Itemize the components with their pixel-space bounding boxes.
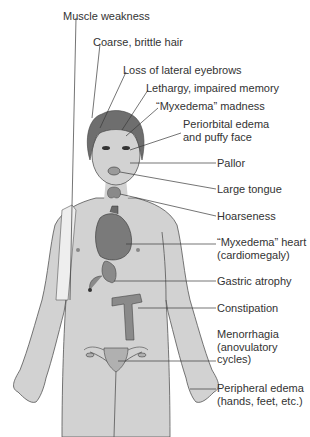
label-lethargy: Lethargy, impaired memory	[146, 82, 279, 95]
label-line: cycles)	[217, 353, 279, 366]
label-hoarseness: Hoarseness	[217, 210, 276, 223]
label-line: Large tongue	[217, 183, 282, 196]
tongue	[108, 167, 120, 175]
label-coarse-hair: Coarse, brittle hair	[93, 36, 183, 49]
head	[87, 111, 144, 185]
label-peripheral-edema: Peripheral edema(hands, feet, etc.)	[217, 382, 304, 407]
label-line: Loss of lateral eyebrows	[123, 64, 242, 77]
label-line: Constipation	[217, 302, 278, 315]
label-line: (anovulatory	[217, 341, 279, 354]
label-gastric-atrophy: Gastric atrophy	[217, 275, 292, 288]
label-periorbital-edema: Periorbital edemaand puffy face	[183, 118, 269, 143]
label-menorrhagia: Menorrhagia(anovulatorycycles)	[217, 328, 279, 366]
label-muscle-weakness: Muscle weakness	[63, 10, 150, 23]
label-lateral-eyebrows: Loss of lateral eyebrows	[123, 64, 242, 77]
label-line: Muscle weakness	[63, 10, 150, 23]
label-line: Lethargy, impaired memory	[146, 82, 279, 95]
label-line: Menorrhagia	[217, 328, 279, 341]
label-line: Pallor	[217, 157, 245, 170]
label-line: (cardiomegaly)	[217, 249, 306, 262]
label-line: Hoarseness	[217, 210, 276, 223]
label-line: (hands, feet, etc.)	[217, 395, 304, 408]
label-line: and puffy face	[183, 131, 269, 144]
label-pallor: Pallor	[217, 157, 245, 170]
label-line: Gastric atrophy	[217, 275, 292, 288]
thyroid	[107, 187, 120, 198]
label-line: Periorbital edema	[183, 118, 269, 131]
label-line: Peripheral edema	[217, 382, 304, 395]
label-line: “Myxedema” heart	[217, 236, 306, 249]
label-line: “Myxedema” madness	[156, 100, 265, 113]
label-large-tongue: Large tongue	[217, 183, 282, 196]
label-myxedema-madness: “Myxedema” madness	[156, 100, 265, 113]
label-line: Coarse, brittle hair	[93, 36, 183, 49]
label-myxedema-heart: “Myxedema” heart(cardiomegaly)	[217, 236, 306, 261]
label-constipation: Constipation	[217, 302, 278, 315]
